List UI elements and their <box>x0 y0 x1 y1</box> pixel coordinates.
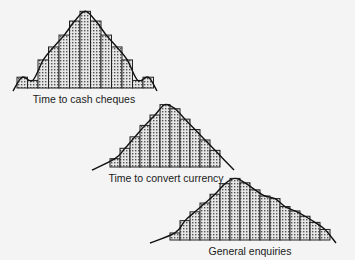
histogram-bar <box>220 184 230 240</box>
histogram-bar <box>280 207 290 240</box>
histogram-bar <box>300 216 310 240</box>
histogram-bar <box>70 21 81 88</box>
histogram-bar <box>200 203 210 240</box>
chart2-label: Time to convert currency <box>108 172 224 184</box>
histogram-bar <box>180 119 190 167</box>
histogram-bar <box>59 35 70 88</box>
histogram-bar <box>150 115 160 167</box>
histogram-bar <box>250 190 260 240</box>
histogram-bar <box>190 212 200 240</box>
histogram-bar <box>240 183 250 240</box>
histogram-bar <box>260 196 270 240</box>
histogram-bar <box>101 35 112 88</box>
histogram-bar <box>140 125 150 167</box>
chart3-label: General enquiries <box>209 245 292 257</box>
histogram-bar <box>180 221 190 240</box>
histogram-bar <box>112 47 123 88</box>
histogram-time-to-convert-currency <box>92 104 234 170</box>
histogram-bar <box>270 199 280 240</box>
histogram-bar <box>210 150 220 167</box>
histogram-bar <box>80 11 91 88</box>
histogram-bar <box>120 148 130 167</box>
histogram-bar <box>170 233 180 240</box>
histogram-general-enquiries <box>150 178 336 243</box>
histogram-bar <box>230 178 240 240</box>
histogram-bar <box>133 80 144 88</box>
histogram-time-to-cash-cheques <box>13 11 157 91</box>
histogram-bar <box>122 60 133 88</box>
histogram-bar <box>49 47 60 88</box>
histogram-bar <box>320 229 330 240</box>
histogram-bar <box>28 80 39 88</box>
histogram-bar <box>190 130 200 167</box>
histogram-bar <box>160 105 170 167</box>
histogram-bar <box>170 109 180 167</box>
histogram-bar <box>38 60 49 88</box>
histogram-bar <box>290 211 300 240</box>
histogram-bar <box>210 194 220 240</box>
histogram-diagram: Time to cash cheques Time to convert cur… <box>0 0 355 260</box>
chart1-label: Time to cash cheques <box>33 93 135 105</box>
histogram-bar <box>91 21 102 88</box>
